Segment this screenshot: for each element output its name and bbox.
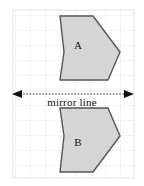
reflection-figure: A B mirror line: [0, 0, 144, 186]
shape-a-label: A: [71, 39, 85, 51]
figure-canvas: [0, 0, 144, 186]
shape-b-label: B: [71, 136, 85, 148]
mirror-line-label: mirror line: [0, 96, 144, 108]
